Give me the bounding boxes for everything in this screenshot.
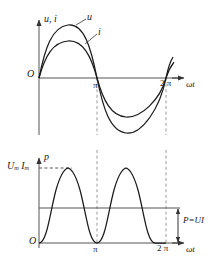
bottom-y-axis-label: p xyxy=(44,152,49,162)
bottom-origin-label: O xyxy=(29,236,36,246)
average-power-label: P=UI xyxy=(183,216,204,225)
voltage-series-label: u xyxy=(87,12,92,22)
voltage-curve xyxy=(39,25,166,133)
current-leader-line xyxy=(85,34,97,44)
power-curve xyxy=(39,168,166,243)
bottom-tick-2pi: 2 π xyxy=(157,244,168,253)
current-series-label: i xyxy=(98,27,101,37)
top-y-axis-label: u, i xyxy=(44,14,57,24)
figure-container: u, i u i O π 2 π ωt p Um Im O π 2 π ωt P… xyxy=(0,0,213,261)
current-curve xyxy=(39,41,166,117)
peak-label-I-sub: m xyxy=(25,164,29,171)
bottom-tick-pi: π xyxy=(93,245,98,254)
voltage-leader-line xyxy=(76,19,86,25)
top-tick-pi: π xyxy=(93,81,98,90)
figure-canvas xyxy=(0,0,213,261)
top-origin-label: O xyxy=(27,69,34,79)
bottom-x-axis-label: ωt xyxy=(186,245,195,254)
peak-level-label: Um Im xyxy=(7,161,29,171)
top-tick-2pi: 2 π xyxy=(160,79,171,88)
top-x-axis-label: ωt xyxy=(186,80,195,89)
